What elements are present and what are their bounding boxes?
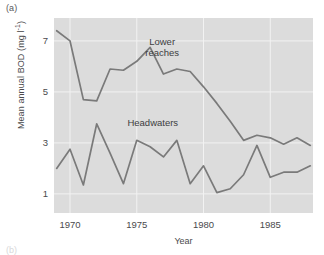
lower-reaches-label: Lower reaches [117,36,207,58]
y-tick-label: 7 [32,35,48,46]
next-panel-label: (b) [6,245,17,255]
y-tick-label: 3 [32,137,48,148]
y-tick-label: 5 [32,86,48,97]
x-tick-label: 1980 [184,219,224,230]
bod-line-chart: Mean annual BOD (mg l-1) Year 1357 19701… [0,0,324,255]
x-tick-label: 1970 [50,219,90,230]
y-tick-label: 1 [32,188,48,199]
headwaters-label: Headwaters [108,117,198,128]
x-tick-label: 1975 [117,219,157,230]
figure-panel-a: (a) Mean annual BOD (mg l-1) Year 1357 1… [0,0,324,255]
x-tick-label: 1985 [250,219,290,230]
